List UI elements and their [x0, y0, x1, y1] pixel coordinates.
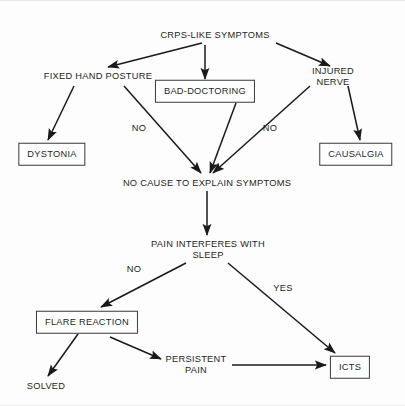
flowchart-canvas: CRPS-LIKE SYMPTOMSFIXED HAND POSTUREBAD-… [0, 0, 405, 406]
node-dystonia: DYSTONIA [18, 143, 85, 166]
edge-flare-to-persistent [110, 337, 161, 359]
node-flare: FLARE REACTION [36, 311, 138, 334]
edge-crps-to-injnerve [276, 43, 330, 66]
edge-label-no-sleep: NO [127, 264, 141, 274]
edge-baddoc-to-nocause [210, 103, 236, 173]
edge-label-no-right: NO [263, 123, 277, 133]
node-icts: ICTS [330, 356, 370, 379]
edge-painsleep-to-icts [228, 263, 335, 353]
edge-label-no-left: NO [132, 123, 146, 133]
edge-label-yes-sleep: YES [273, 283, 292, 293]
edge-fixedhand-to-dystonia [48, 86, 74, 140]
edge-painsleep-to-flare [101, 263, 186, 307]
node-persistent: PERSISTENT PAIN [166, 354, 227, 375]
node-nocause: NO CAUSE TO EXPLAIN SYMPTOMS [123, 178, 291, 189]
node-solved: SOLVED [27, 381, 66, 392]
edge-crps-to-fixedhand [108, 43, 202, 67]
node-crps: CRPS-LIKE SYMPTOMS [160, 30, 269, 41]
flowchart-edge-layer [0, 1, 405, 406]
node-injnerve: INJURED NERVE [297, 66, 369, 87]
node-painsleep: PAIN INTERFERES WITH SLEEP [151, 239, 265, 260]
edge-flare-to-solved [48, 334, 78, 376]
node-causalgia: CAUSALGIA [319, 143, 392, 166]
node-baddoc: BAD-DOCTORING [155, 80, 255, 103]
node-fixedhand: FIXED HAND POSTURE [44, 71, 152, 82]
edge-injnerve-to-causalgia [348, 86, 360, 140]
